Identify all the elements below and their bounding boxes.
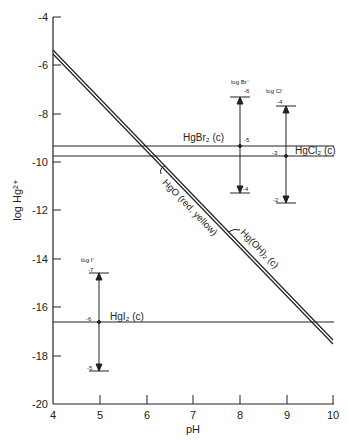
svg-text:-12: -12 [32, 204, 48, 216]
y-tick-labels: -4 -6 -8 -10 -12 -14 -16 -18 -20 [32, 11, 48, 410]
chart: -4 -6 -8 -10 -12 -14 -16 -18 -20 4 5 6 7… [0, 0, 348, 441]
svg-text:6: 6 [144, 409, 150, 421]
svg-text:-18: -18 [32, 350, 48, 362]
log-br-label: log Br⁻ [231, 79, 250, 85]
br-bot: -4 [243, 186, 249, 192]
i-mid: -6 [86, 316, 92, 322]
cl-mid: -3 [272, 150, 278, 156]
svg-text:9: 9 [284, 409, 290, 421]
hgcl2-label: HgCl₂ (c) [295, 145, 336, 156]
svg-text:-16: -16 [32, 301, 48, 313]
svg-text:-6: -6 [38, 59, 48, 71]
log-cl-label: log Cl⁻ [266, 88, 284, 94]
svg-text:-4: -4 [38, 11, 48, 23]
hgoh2-line [53, 54, 333, 344]
hgbr2-label: HgBr₂ (c) [183, 132, 224, 143]
svg-text:-14: -14 [32, 253, 48, 265]
cl-scale [276, 106, 296, 203]
hgo-line [53, 50, 333, 340]
svg-text:-20: -20 [32, 398, 48, 410]
hgo-label: HgO (red, yellow) [161, 177, 220, 238]
i-top: -7 [88, 267, 94, 273]
x-tick-labels: 4 5 6 7 8 9 10 [50, 409, 339, 421]
x-axis-label: pH [186, 423, 200, 435]
svg-text:10: 10 [327, 409, 339, 421]
hgoh2-pointer [228, 229, 240, 232]
br-top: -6 [244, 88, 250, 94]
y-axis-label: log Hg²⁺ [11, 179, 23, 220]
svg-text:5: 5 [97, 409, 103, 421]
cl-bot: -2 [273, 197, 279, 203]
br-scale [230, 97, 250, 193]
x-ticks [100, 395, 333, 404]
svg-text:-10: -10 [32, 156, 48, 168]
hgi2-label: HgI₂ (c) [110, 311, 144, 322]
br-mid: -5 [244, 137, 250, 143]
svg-text:4: 4 [50, 409, 56, 421]
svg-text:7: 7 [190, 409, 196, 421]
i-bot: -5 [87, 365, 93, 371]
cl-top: -4 [277, 99, 283, 105]
y-ticks [53, 17, 61, 356]
svg-text:-8: -8 [38, 108, 48, 120]
svg-text:8: 8 [237, 409, 243, 421]
log-i-label: log I⁻ [81, 257, 95, 263]
